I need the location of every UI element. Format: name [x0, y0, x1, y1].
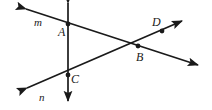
- line-m: [26, 9, 198, 65]
- line-label-n: n: [39, 92, 45, 103]
- geometry-canvas: [0, 0, 212, 110]
- point-label-C: C: [71, 73, 79, 85]
- line-n: [27, 21, 182, 88]
- point-B: [136, 44, 141, 49]
- point-C: [66, 73, 71, 78]
- geometry-figure: mnABCD: [0, 0, 212, 110]
- point-label-D: D: [152, 16, 161, 28]
- point-label-B: B: [136, 51, 143, 63]
- point-D: [160, 29, 165, 34]
- line-label-m: m: [34, 17, 42, 28]
- lines-group: [26, 3, 198, 101]
- point-label-A: A: [58, 26, 65, 38]
- point-A: [66, 22, 71, 27]
